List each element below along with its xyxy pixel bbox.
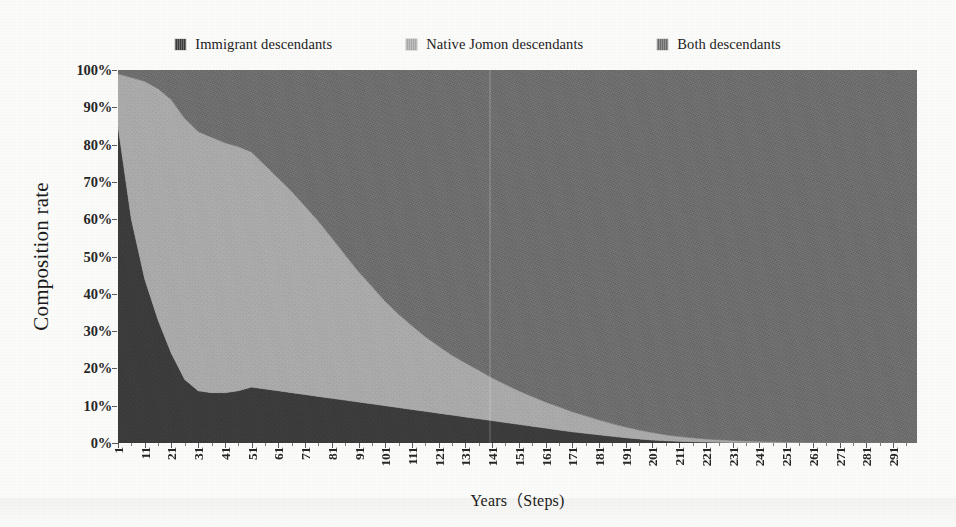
- x-axis-tick-label: 111: [406, 447, 420, 465]
- x-axis-minor-tick-mark: [639, 443, 640, 446]
- x-axis-tick-mark: [679, 443, 680, 448]
- legend-label: Native Jomon descendants: [426, 37, 583, 52]
- legend-item-both-descendants: Both descendants: [657, 37, 780, 52]
- x-axis-minor-tick-mark: [505, 443, 506, 446]
- x-axis-tick-mark: [412, 443, 413, 448]
- stacked-area-plot: [118, 70, 917, 443]
- y-axis-tick-mark: [112, 331, 117, 332]
- x-axis-minor-tick-mark: [318, 443, 319, 446]
- x-axis-tick-mark: [599, 443, 600, 448]
- x-axis-tick-label: 251: [780, 447, 794, 466]
- x-axis-minor-tick-mark: [292, 443, 293, 446]
- x-axis-minor-tick-mark: [799, 443, 800, 446]
- x-axis-tick-mark: [626, 443, 627, 448]
- x-axis-tick-label: 291: [887, 447, 901, 466]
- x-axis-tick-label: 181: [593, 447, 607, 466]
- x-axis-minor-tick-mark: [826, 443, 827, 446]
- scan-seam-line: [489, 70, 490, 443]
- x-axis-minor-tick-mark: [131, 443, 132, 446]
- y-axis-tick-mark: [112, 70, 117, 71]
- x-axis-tick-mark: [305, 443, 306, 448]
- x-axis-minor-tick-mark: [425, 443, 426, 446]
- x-axis-tick-mark: [866, 443, 867, 448]
- x-axis-minor-tick-mark: [853, 443, 854, 446]
- legend-swatch-icon: [406, 39, 417, 50]
- x-axis-minor-tick-mark: [372, 443, 373, 446]
- x-axis-minor-tick-mark: [532, 443, 533, 446]
- x-axis-minor-tick-mark: [559, 443, 560, 446]
- x-axis-tick-label: 141: [486, 447, 500, 466]
- legend-item-native-jomon-descendants: Native Jomon descendants: [406, 37, 583, 52]
- x-axis-tick-mark: [840, 443, 841, 448]
- y-axis-tick-mark: [112, 182, 117, 183]
- x-axis-minor-tick-mark: [773, 443, 774, 446]
- x-axis-tick-mark: [519, 443, 520, 448]
- x-axis-tick-label: 191: [620, 447, 634, 466]
- x-axis-minor-tick-mark: [479, 443, 480, 446]
- x-axis-tick-labels: 1112131415161718191101111121131141151161…: [118, 447, 917, 491]
- x-axis-tick-mark: [546, 443, 547, 448]
- x-axis-tick-label: 261: [807, 447, 821, 466]
- x-axis-tick-mark: [492, 443, 493, 448]
- x-axis-minor-tick-mark: [746, 443, 747, 446]
- x-axis-tick-label: 281: [860, 447, 874, 466]
- x-axis-minor-tick-mark: [693, 443, 694, 446]
- x-axis-tick-mark: [465, 443, 466, 448]
- x-axis-minor-tick-mark: [719, 443, 720, 446]
- x-axis-tick-mark: [225, 443, 226, 448]
- legend-item-immigrant-descendants: Immigrant descendants: [175, 37, 332, 52]
- y-axis-tick-marks: [0, 70, 120, 443]
- x-axis-minor-tick-mark: [345, 443, 346, 446]
- x-axis-tick-label: 171: [566, 447, 580, 466]
- x-axis-tick-mark: [652, 443, 653, 448]
- x-axis-minor-tick-mark: [212, 443, 213, 446]
- x-axis-tick-mark: [252, 443, 253, 448]
- x-axis-minor-tick-mark: [880, 443, 881, 446]
- x-axis-tick-mark: [385, 443, 386, 448]
- y-axis-tick-mark: [112, 406, 117, 407]
- y-axis-tick-mark: [112, 294, 117, 295]
- x-axis-tick-label: 201: [646, 447, 660, 466]
- x-axis-tick-label: 221: [700, 447, 714, 466]
- chart-legend: Immigrant descendants Native Jomon desce…: [0, 31, 956, 57]
- x-axis-tick-label: 271: [834, 447, 848, 466]
- x-axis-tick-label: 131: [459, 447, 473, 466]
- x-axis-tick-mark: [171, 443, 172, 448]
- x-axis-tick-label: 161: [540, 447, 554, 466]
- x-axis-minor-tick-mark: [666, 443, 667, 446]
- x-axis-tick-mark: [813, 443, 814, 448]
- x-axis-minor-tick-mark: [265, 443, 266, 446]
- y-axis-tick-mark: [112, 368, 117, 369]
- x-axis-minor-tick-mark: [238, 443, 239, 446]
- x-axis-tick-label: 231: [727, 447, 741, 466]
- x-axis-tick-label: 151: [513, 447, 527, 466]
- x-axis-tick-mark: [198, 443, 199, 448]
- x-axis-minor-tick-mark: [586, 443, 587, 446]
- y-axis-tick-mark: [112, 219, 117, 220]
- x-axis-tick-mark: [733, 443, 734, 448]
- plot-svg: [118, 70, 917, 443]
- x-axis-tick-mark: [572, 443, 573, 448]
- x-axis-tick-mark: [706, 443, 707, 448]
- legend-swatch-icon: [657, 39, 668, 50]
- y-axis-tick-mark: [112, 107, 117, 108]
- x-axis-minor-tick-mark: [185, 443, 186, 446]
- x-axis-minor-tick-mark: [158, 443, 159, 446]
- x-axis-tick-mark: [332, 443, 333, 448]
- x-axis-tick-mark: [145, 443, 146, 448]
- x-axis-tick-label: 241: [753, 447, 767, 466]
- legend-label: Both descendants: [677, 37, 780, 52]
- x-axis-tick-mark: [786, 443, 787, 448]
- x-axis-tick-mark: [893, 443, 894, 448]
- x-axis-minor-tick-mark: [612, 443, 613, 446]
- x-axis-tick-mark: [278, 443, 279, 448]
- x-axis-tick-marks: [118, 443, 917, 449]
- legend-swatch-icon: [175, 39, 186, 50]
- x-axis-minor-tick-mark: [452, 443, 453, 446]
- x-axis-tick-mark: [118, 443, 119, 448]
- x-axis-tick-label: 101: [379, 447, 393, 466]
- x-axis-tick-label: 211: [673, 447, 687, 466]
- x-axis-minor-tick-mark: [906, 443, 907, 446]
- y-axis-tick-mark: [112, 145, 117, 146]
- legend-label: Immigrant descendants: [195, 37, 332, 52]
